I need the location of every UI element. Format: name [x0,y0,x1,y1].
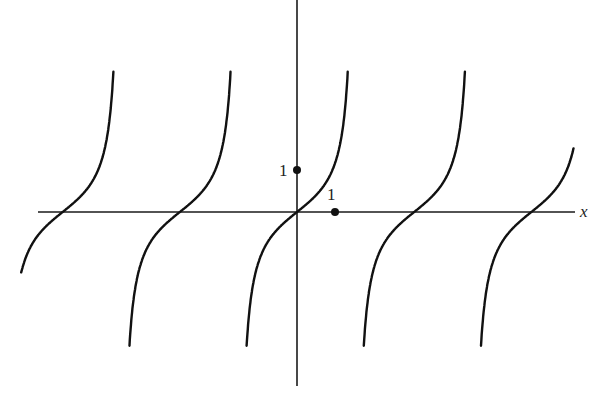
x-tick-label-1: 1 [327,185,336,204]
point-x-1 [331,208,339,216]
tangent-branch-2 [130,72,231,346]
y-tick-label-1: 1 [279,161,288,180]
x-axis-label: x [579,202,588,221]
tangent-branch-5 [481,148,574,345]
point-y-1 [293,166,301,174]
tangent-branch-1 [21,72,113,273]
tangent-branch-4 [364,72,465,346]
tangent-plot: 1 1 x [0,0,616,399]
